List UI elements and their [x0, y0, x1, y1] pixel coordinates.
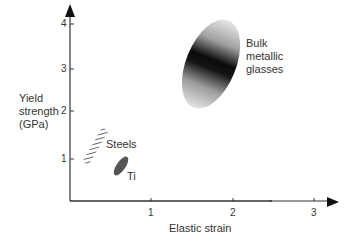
ylabel-line: Yield [19, 92, 59, 105]
bmg-label: Bulk metallic glasses [246, 37, 283, 76]
x-axis [70, 197, 339, 207]
bmg-label-line: glasses [246, 63, 283, 76]
bmg-label-line: metallic [246, 50, 283, 63]
x-tick-label: 2 [230, 207, 236, 218]
y-tick-label: 4 [61, 18, 67, 29]
x-tick-label: 1 [148, 207, 154, 218]
y-tick-label: 2 [61, 105, 67, 116]
x-axis-label: Elastic strain [169, 222, 231, 235]
steels-label: Steels [106, 138, 137, 151]
ylabel-line: (GPa) [19, 118, 59, 131]
y-tick-label: 3 [61, 63, 67, 74]
y-axis-label: Yield strength (GPa) [19, 92, 59, 131]
bmg-label-line: Bulk [246, 37, 283, 50]
steels-region [82, 127, 108, 165]
ylabel-line: strength [19, 105, 59, 118]
y-tick-label: 1 [61, 153, 67, 164]
bmg-region [170, 11, 252, 117]
y-axis [65, 4, 75, 201]
ti-label: Ti [127, 170, 136, 183]
x-tick-label: 3 [311, 207, 317, 218]
